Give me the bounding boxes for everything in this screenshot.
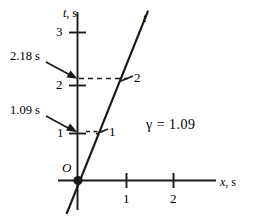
event-1-label: 1 [109,125,116,138]
event-2-label: 2 [134,71,141,84]
origin-dot [73,176,82,185]
t-prime-mark: ′ [146,8,148,18]
t-axis-unit: s [72,6,77,20]
gamma-equation: γ = 1.09 [146,118,196,132]
t-tick-label-2: 2 [56,78,63,91]
spacetime-diagram-figure: t, s x, s t′ 3 2 1 1 2 O 2 1 2.18 s 1.09… [0,0,253,219]
x-tick-label-1: 1 [123,192,130,205]
x-axis-unit: s [231,175,236,189]
t-prime-axis-label: t′ [143,9,148,25]
origin-label: O [62,161,71,174]
event-2-marker [121,76,133,81]
t-tick-label-3: 3 [56,25,63,38]
x-tick-label-2: 2 [170,192,177,205]
x-axis-label: x, s [220,173,236,189]
t-tick-label-1: 1 [57,126,64,139]
event-1-marker [96,129,108,134]
annotation-upper-value: 2.18 s [10,50,40,63]
t-axis-label: t, s [63,4,77,20]
annotation-lower-value: 1.09 s [10,104,40,117]
